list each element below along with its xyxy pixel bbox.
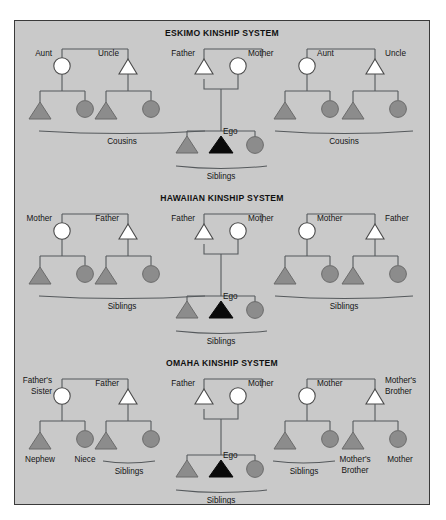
label-parent-3: Mother	[248, 49, 274, 58]
symbol-sibling-daughter-1	[77, 266, 94, 283]
symbol-ego	[209, 301, 233, 318]
label-group-siblings-center: Siblings	[207, 496, 236, 505]
hawaiian-diagram: Mother Father Father Mother Mother Fathe…	[15, 186, 430, 351]
symbol-uncle-left	[119, 59, 137, 74]
symbol-sibling-daughter-2	[143, 266, 160, 283]
label-parent-1: Uncle	[98, 49, 119, 58]
symbol-mother-center	[230, 223, 246, 239]
label-mothers-brother-line2: Brother	[342, 466, 369, 475]
label-group-siblings-left: Siblings	[108, 302, 137, 311]
label-parent-0-line2: Sister	[31, 387, 52, 396]
label-parent-5: Uncle	[385, 49, 406, 58]
label-group-siblings-right: Siblings	[330, 302, 359, 311]
symbol-nephew	[29, 432, 51, 449]
symbol-mothers-brother	[366, 389, 384, 404]
symbol-aunt-left	[54, 58, 70, 74]
symbol-sibling-son-right	[274, 432, 296, 449]
brace-siblings-left	[39, 296, 205, 299]
symbol-sibling-son-4	[342, 267, 364, 284]
symbol-fathers-sister	[54, 388, 70, 404]
eskimo-diagram: Aunt Uncle Father Mother Aunt Uncle	[15, 21, 430, 186]
symbol-sibling-son-1	[29, 267, 51, 284]
label-parent-0-line1: Father's	[23, 376, 52, 385]
symbol-father-left	[119, 224, 137, 239]
symbol-sibling-sister	[247, 461, 264, 478]
brace-siblings-left	[103, 461, 155, 463]
symbol-niece	[77, 431, 94, 448]
symbol-cousin-son-2	[95, 102, 117, 119]
label-ego: Ego	[223, 451, 238, 460]
symbol-mother-left	[54, 223, 70, 239]
symbol-father-right	[366, 224, 384, 239]
symbol-sibling-brother	[176, 460, 198, 477]
label-group-siblings-left: Siblings	[115, 467, 144, 476]
symbol-cousin-daughter-2	[143, 101, 160, 118]
symbol-sibling-daughter-3	[322, 266, 339, 283]
label-parent-3: Mother	[248, 214, 274, 223]
symbol-mother	[230, 58, 246, 74]
symbol-sibling-sister	[247, 302, 264, 319]
label-niece: Niece	[75, 455, 96, 464]
label-parent-5-line2: Brother	[385, 387, 412, 396]
symbol-sibling-daughter-left	[143, 431, 160, 448]
panel-omaha: OMAHA KINSHIP SYSTEM Father's Sister Fat…	[15, 351, 429, 505]
symbol-cousin-son-4	[342, 102, 364, 119]
label-group-cousins-left: Cousins	[107, 137, 137, 146]
symbol-father	[195, 59, 213, 74]
symbol-mother-right	[299, 388, 315, 404]
brace-cousins-left	[39, 131, 205, 134]
label-group-siblings-center: Siblings	[207, 337, 236, 346]
symbol-sibling-son-3	[274, 267, 296, 284]
label-parent-2: Father	[171, 379, 195, 388]
label-parent-3: Mother	[248, 379, 274, 388]
panel-eskimo: ESKIMO KINSHIP SYSTEM Aunt Uncle Father …	[15, 21, 429, 186]
symbol-ego	[209, 136, 233, 153]
brace-siblings-center	[176, 166, 267, 169]
label-ego: Ego	[223, 292, 238, 301]
symbol-mother-child	[390, 431, 407, 448]
symbol-uncle-right	[366, 59, 384, 74]
label-parent-5: Father	[385, 214, 409, 223]
label-parent-2: Father	[171, 214, 195, 223]
label-parent-4: Mother	[317, 214, 343, 223]
symbol-cousin-son-3	[274, 102, 296, 119]
symbol-mothers-brother-child	[342, 432, 364, 449]
label-nephew: Nephew	[25, 455, 55, 464]
symbol-sibling-daughter-4	[390, 266, 407, 283]
label-group-siblings-center: Siblings	[207, 172, 236, 181]
kinship-figure-frame: ESKIMO KINSHIP SYSTEM Aunt Uncle Father …	[14, 20, 430, 505]
symbol-aunt-right	[299, 58, 315, 74]
brace-siblings-center	[176, 331, 267, 334]
label-parent-1: Father	[95, 214, 119, 223]
symbol-cousin-daughter-4	[390, 101, 407, 118]
label-group-siblings-right: Siblings	[290, 467, 319, 476]
label-parent-0: Mother	[27, 214, 53, 223]
symbol-mother-center	[230, 388, 246, 404]
symbol-mother-right	[299, 223, 315, 239]
brace-cousins-right	[275, 131, 413, 134]
label-group-cousins-right: Cousins	[329, 137, 359, 146]
label-mothers-brother-line1: Mother's	[339, 455, 370, 464]
symbol-sibling-son-2	[95, 267, 117, 284]
label-parent-2: Father	[171, 49, 195, 58]
symbol-father-center	[195, 389, 213, 404]
label-parent-0: Aunt	[35, 49, 53, 58]
brace-siblings-right	[273, 461, 335, 463]
symbol-sibling-sister	[247, 137, 264, 154]
symbol-sibling-brother	[176, 301, 198, 318]
label-parent-5-line1: Mother's	[385, 376, 416, 385]
brace-siblings-right	[275, 296, 413, 299]
label-parent-4: Mother	[317, 379, 343, 388]
symbol-cousin-son-1	[29, 102, 51, 119]
label-parent-4: Aunt	[317, 49, 335, 58]
label-mother-child: Mother	[387, 455, 413, 464]
symbol-sibling-son-left	[95, 432, 117, 449]
symbol-father-center	[195, 224, 213, 239]
brace-siblings-center	[176, 490, 267, 493]
panel-hawaiian: HAWAIIAN KINSHIP SYSTEM Mother Father Fa…	[15, 186, 429, 351]
omaha-diagram: Father's Sister Father Father Mother Mot…	[15, 351, 430, 505]
symbol-ego	[209, 460, 233, 477]
symbol-sibling-brother	[176, 136, 198, 153]
label-ego: Ego	[223, 127, 238, 136]
symbol-sibling-daughter-right	[322, 431, 339, 448]
